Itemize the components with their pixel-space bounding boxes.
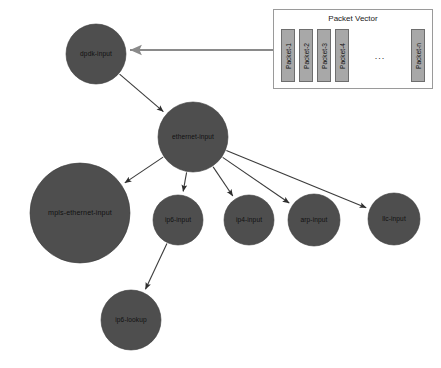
packet-cell-label: Packet-2 [303,42,310,68]
node-label-dpdk-input: dpdk-input [80,50,112,58]
node-label-arp-input: arp-input [301,216,328,224]
node-label-mpls-ethernet-input: mpls-ethernet-input [48,208,112,217]
packet-cell-label: Packet-n [415,42,422,68]
node-label-llc-input: llc-input [382,215,406,223]
graph-node-ethernet-input[interactable]: ethernet-input [158,102,228,172]
node-label-ethernet-input: ethernet-input [172,133,214,141]
edge-ethernet-input-to-mpls-ethernet-input [125,157,163,183]
graph-node-ip6-lookup[interactable]: ip6-lookup [101,290,161,350]
edge-ethernet-input-to-ip6-input [183,172,186,191]
packet-cell-label: Packet-4 [339,42,346,68]
packet-cell: Packet-1 [281,29,295,82]
node-label-ip4-input: ip4-input [236,216,262,224]
graph-node-ip6-input[interactable]: ip6-input [153,195,203,245]
node-label-ip6-input: ip6-input [165,216,191,224]
edge-dpdk-input-to-ethernet-input [120,74,164,111]
node-label-ip6-lookup: ip6-lookup [115,316,147,324]
packet-vector-panel: Packet Vector Packet-1Packet-2Packet-3Pa… [273,9,433,89]
packet-vector-title: Packet Vector [274,14,432,23]
edges-layer [120,74,367,289]
packet-cell-label: Packet-1 [285,42,292,68]
packet-cell: Packet-3 [317,29,331,82]
graph-node-llc-input[interactable]: llc-input [368,193,420,245]
edge-ip6-input-to-ip6-lookup [145,244,166,290]
graph-node-mpls-ethernet-input[interactable]: mpls-ethernet-input [30,163,130,263]
packet-list: Packet-1Packet-2Packet-3Packet-4...Packe… [281,29,425,82]
packet-cell-last: Packet-n [411,29,425,82]
graph-node-arp-input[interactable]: arp-input [288,194,340,246]
packet-ellipsis: ... [353,29,407,82]
packet-cell: Packet-2 [299,29,313,82]
diagram-canvas: dpdk-inputethernet-inputmpls-ethernet-in… [0,0,441,368]
graph-node-dpdk-input[interactable]: dpdk-input [66,24,126,84]
edge-ethernet-input-to-ip4-input [213,167,233,196]
packet-cell: Packet-4 [335,29,349,82]
packet-cell-label: Packet-3 [321,42,328,68]
graph-node-ip4-input[interactable]: ip4-input [224,195,274,245]
